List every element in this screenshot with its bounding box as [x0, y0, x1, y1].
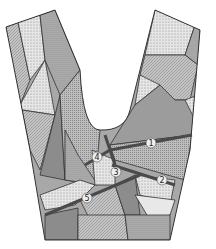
seam-label-1: 1	[146, 138, 156, 148]
seam-label-3: 3	[111, 167, 121, 177]
yoke-diagram: 1 2 3 4 5	[0, 0, 216, 249]
seam-label-2: 2	[157, 175, 167, 185]
seam-label-5: 5	[82, 193, 92, 203]
svg-text:3: 3	[113, 168, 118, 177]
svg-text:2: 2	[159, 176, 164, 185]
seam-label-4: 4	[92, 152, 102, 162]
svg-text:1: 1	[148, 139, 153, 148]
svg-text:5: 5	[84, 194, 89, 203]
patchwork-pieces	[0, 0, 216, 249]
svg-text:4: 4	[94, 153, 99, 162]
